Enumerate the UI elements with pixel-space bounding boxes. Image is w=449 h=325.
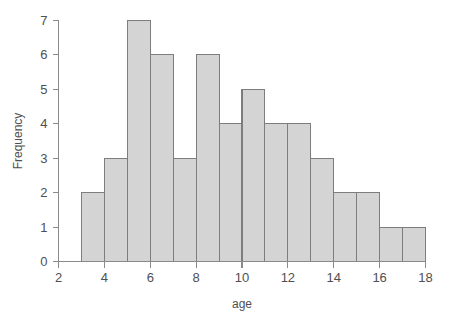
x-axis-title: age [232,297,252,311]
y-tick-label: 6 [40,47,47,62]
y-tick-label: 7 [40,13,47,28]
histogram-bar [127,21,150,262]
histogram-bar [242,89,265,261]
y-tick-label: 2 [40,185,47,200]
histogram-bar [311,158,334,261]
x-tick-label: 12 [281,270,295,285]
y-tick-label: 0 [40,254,47,269]
x-tick-label: 8 [193,270,200,285]
y-axis-title: Frequency [11,113,25,170]
histogram-bar [380,227,403,261]
histogram-bar [81,193,104,262]
histogram-bar [334,193,357,262]
x-axis-ticks: 24681012141618 [55,262,433,285]
histogram-bar [173,158,196,261]
histogram-bar [104,158,127,261]
y-tick-label: 5 [40,82,47,97]
histogram-bars [81,21,425,262]
x-tick-label: 10 [235,270,249,285]
y-tick-label: 1 [40,220,47,235]
x-tick-label: 16 [372,270,386,285]
x-tick-label: 14 [327,270,341,285]
histogram-bar [403,227,426,261]
x-tick-label: 2 [55,270,62,285]
x-tick-label: 4 [101,270,108,285]
histogram-canvas: 0123456724681012141618ageFrequency [0,0,449,325]
x-tick-label: 6 [147,270,154,285]
histogram-figure: 0123456724681012141618ageFrequency [0,0,449,325]
histogram-bar [265,124,288,262]
y-axis-ticks: 01234567 [40,13,58,269]
histogram-bar [357,193,380,262]
histogram-bar [288,124,311,262]
histogram-bar [219,124,242,262]
x-tick-label: 18 [418,270,432,285]
y-tick-label: 4 [40,116,47,131]
histogram-bar [150,55,173,262]
y-tick-label: 3 [40,151,47,166]
histogram-bar [196,55,219,262]
